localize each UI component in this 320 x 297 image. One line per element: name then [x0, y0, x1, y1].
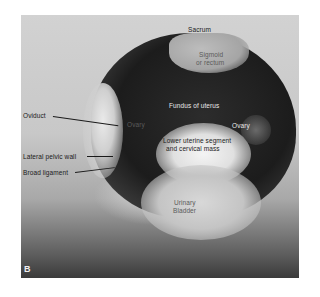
lateral-pelvic-wall-leader-line [87, 156, 113, 157]
label-ovary-right: Ovary [232, 122, 250, 129]
label-lower-uterine-line1: Lower uterine segment [163, 137, 231, 144]
label-sigmoid-line1: Sigmoid [199, 51, 223, 58]
label-lower-uterine-line2: and cervical mass [166, 145, 220, 152]
label-sigmoid-line2: or rectum [196, 59, 224, 66]
label-bladder-line2: Bladder [173, 207, 196, 214]
panel-letter: B [24, 264, 31, 274]
label-ovary-left: Ovary [127, 121, 145, 128]
bladder-region [141, 165, 261, 240]
ultrasound-figure: Sacrum Sigmoid or rectum Fundus of uteru… [21, 15, 299, 278]
label-bladder-line1: Urinary [174, 199, 196, 206]
left-oviduct-region [83, 83, 123, 178]
right-ovary-region [241, 115, 271, 145]
label-fundus: Fundus of uterus [169, 102, 219, 109]
label-oviduct: Oviduct [23, 112, 46, 119]
label-broad-ligament: Broad ligament [23, 169, 68, 176]
label-sacrum: Sacrum [188, 26, 211, 33]
label-lateral-pelvic-wall: Lateral pelvic wall [23, 153, 76, 160]
